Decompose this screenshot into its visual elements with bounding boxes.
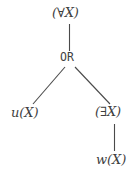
formula-tree-diagram: (∀X) OR u(X) (∃X) w(X) [0, 0, 139, 176]
edge-or-to-existential [75, 67, 110, 104]
edge-or-to-left-leaf [33, 67, 65, 104]
tree-edges [0, 0, 139, 176]
node-universal-quantifier: (∀X) [52, 6, 79, 19]
node-predicate-u: u(X) [11, 106, 38, 119]
node-existential-quantifier: (∃X) [95, 105, 121, 118]
node-predicate-w: w(X) [96, 153, 126, 166]
node-or-connective: OR [60, 52, 74, 64]
